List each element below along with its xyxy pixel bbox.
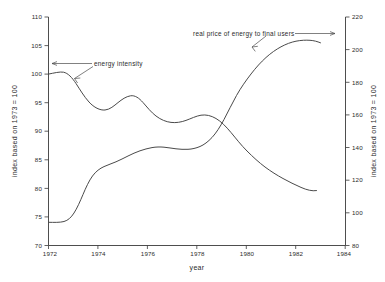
left-tick-80: 80: [35, 185, 43, 192]
left-tick-75: 75: [35, 213, 43, 220]
series-real-price-line: [49, 40, 321, 222]
x-tick-1972: 1972: [43, 250, 58, 257]
left-axis-title: index based on 1973 = 100: [11, 85, 18, 177]
chart-figure: 110 105 100 95 90 85 80 75 70 220 200 18…: [0, 0, 385, 282]
left-axis-tick-labels: 110 105 100 95 90 85 80 75 70: [31, 13, 42, 249]
annotation-real-price-label: real price of energy to final users: [193, 30, 294, 38]
right-axis-ticks: [346, 17, 350, 246]
annotation-energy-intensity: energy intensity: [52, 60, 143, 84]
right-tick-160: 160: [352, 111, 363, 118]
left-tick-105: 105: [31, 42, 42, 49]
x-tick-1982: 1982: [289, 250, 304, 257]
left-tick-95: 95: [35, 99, 43, 106]
right-tick-100: 100: [352, 209, 363, 216]
x-tick-1980: 1980: [240, 250, 255, 257]
x-tick-1984: 1984: [337, 250, 352, 257]
series-energy-intensity-line: [49, 72, 317, 191]
right-tick-80: 80: [352, 242, 360, 249]
right-tick-140: 140: [352, 144, 363, 151]
left-tick-70: 70: [35, 242, 43, 249]
left-tick-85: 85: [35, 156, 43, 163]
annotation-energy-intensity-label: energy intensity: [94, 60, 143, 68]
right-tick-180: 180: [352, 79, 363, 86]
left-tick-110: 110: [32, 13, 43, 20]
left-tick-90: 90: [35, 127, 43, 134]
right-tick-220: 220: [352, 13, 363, 20]
right-tick-200: 200: [352, 46, 363, 53]
x-tick-1978: 1978: [190, 250, 205, 257]
x-axis-title: year: [190, 264, 205, 272]
line-chart-canvas: 110 105 100 95 90 85 80 75 70 220 200 18…: [0, 0, 385, 282]
x-axis-ticks: [49, 246, 346, 250]
right-axis-tick-labels: 220 200 180 160 140 120 100 80: [352, 13, 363, 249]
left-axis-ticks: [45, 17, 49, 246]
right-tick-120: 120: [352, 176, 363, 183]
x-axis-tick-labels: 1972 1974 1976 1978 1980 1982 1984: [43, 250, 352, 257]
x-tick-1974: 1974: [91, 250, 106, 257]
x-tick-1976: 1976: [141, 250, 156, 257]
left-tick-100: 100: [31, 70, 42, 77]
right-axis-title: index based on 1973 = 100: [370, 85, 377, 177]
